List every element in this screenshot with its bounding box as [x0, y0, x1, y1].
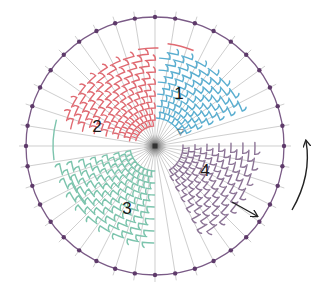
weave-stroke	[194, 175, 199, 182]
weave-stroke	[125, 186, 132, 191]
weave-stroke	[148, 116, 151, 121]
weave-stroke	[125, 137, 130, 141]
weave-stroke	[134, 108, 138, 114]
weave-stroke	[212, 206, 220, 216]
weave-stroke	[136, 235, 147, 240]
weave-stroke	[55, 164, 62, 175]
weave-stroke	[161, 115, 165, 120]
weave-stroke	[157, 113, 161, 118]
weave-stroke	[229, 98, 238, 107]
weave-stroke	[151, 171, 154, 176]
weave-stroke	[140, 119, 143, 125]
woven-section-4	[170, 143, 260, 235]
weave-stroke	[148, 195, 154, 200]
rim-dot	[193, 21, 197, 25]
weave-stroke	[183, 145, 188, 148]
weave-stroke	[150, 183, 155, 188]
weave-stroke	[152, 115, 155, 120]
weave-stroke	[236, 150, 241, 160]
weave-stroke	[203, 87, 212, 93]
rim-dot	[257, 220, 261, 224]
rim-dot	[153, 273, 157, 277]
weave-stroke	[188, 98, 196, 103]
hub-icon	[153, 144, 158, 149]
weave-stroke	[192, 214, 200, 222]
weave-stroke	[97, 73, 105, 82]
section-label-2: 2	[92, 117, 101, 136]
weave-stroke	[121, 87, 127, 94]
weave-stroke	[136, 121, 140, 127]
rim-dot	[282, 144, 286, 148]
weave-stroke	[79, 122, 84, 131]
weave-stroke	[129, 158, 135, 161]
weave-stroke	[195, 96, 203, 101]
weave-stroke	[210, 215, 219, 225]
rim-dot	[280, 124, 284, 128]
weave-stroke	[94, 190, 102, 197]
weave-stroke	[128, 105, 132, 112]
weave-stroke	[221, 205, 228, 215]
weave-stroke	[181, 173, 185, 179]
weave-stroke	[148, 79, 155, 84]
weave-stroke	[94, 208, 104, 214]
weave-stroke	[231, 143, 236, 152]
weave-stroke	[151, 103, 156, 108]
weave-stroke	[189, 189, 194, 196]
weave-stroke	[203, 103, 211, 109]
weave-stroke	[175, 171, 179, 177]
rim-dot	[25, 164, 29, 168]
weave-stroke	[197, 224, 207, 233]
rim-dot	[30, 104, 34, 108]
weave-stroke	[194, 151, 199, 156]
weave-stroke	[144, 230, 154, 235]
section-label-3: 3	[122, 199, 131, 218]
weave-stroke	[75, 205, 85, 214]
weave-stroke	[102, 130, 107, 136]
weave-stroke	[180, 114, 186, 118]
weave-stroke	[158, 78, 166, 83]
weave-stroke	[113, 176, 120, 180]
weave-stroke	[210, 158, 215, 165]
weave-stroke	[142, 73, 150, 79]
weave-stroke	[121, 102, 126, 109]
weave-stroke	[114, 100, 119, 107]
weave-stroke	[129, 83, 136, 90]
weave-stroke	[203, 207, 211, 216]
weave-stroke	[199, 155, 204, 161]
weave-stroke	[194, 206, 201, 214]
weave-stroke	[104, 183, 112, 189]
weave-stroke	[123, 109, 127, 116]
rim-dot	[48, 68, 52, 72]
weave-stroke	[160, 54, 170, 59]
rim-dot	[77, 39, 81, 43]
weave-stroke	[114, 133, 119, 138]
weave-stroke	[90, 173, 98, 180]
weave-stroke	[109, 128, 114, 134]
weave-stroke	[67, 162, 74, 172]
weave-stroke	[144, 117, 147, 123]
weave-stroke	[96, 183, 104, 189]
weave-stroke	[207, 225, 217, 235]
rim-dot	[275, 184, 279, 188]
rim-dot	[94, 29, 98, 33]
weave-stroke	[188, 105, 195, 109]
weave-stroke	[188, 196, 194, 204]
weave-stroke	[98, 175, 105, 181]
weave-stroke	[173, 122, 179, 126]
weave-stroke	[161, 96, 167, 101]
rim-dot	[38, 202, 42, 206]
weave-stroke	[217, 154, 222, 162]
rim-dot	[30, 184, 34, 188]
weave-stroke	[163, 85, 170, 90]
weave-stroke	[181, 107, 188, 112]
weave-stroke	[165, 116, 170, 121]
weave-stroke	[147, 207, 154, 212]
weave-stroke	[196, 198, 202, 206]
weave-stroke	[158, 90, 164, 95]
weave-stroke	[79, 159, 86, 167]
weave-stroke	[204, 190, 210, 199]
diagram-canvas: ▽ 1234	[0, 0, 327, 299]
weave-stroke	[195, 104, 203, 109]
weave-stroke	[145, 218, 154, 223]
accent-arc	[138, 48, 158, 49]
